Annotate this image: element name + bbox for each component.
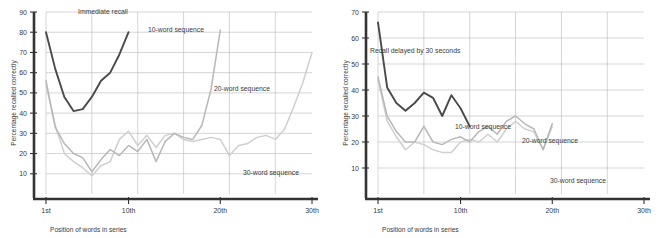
x-axis-tick-label: 20th (545, 207, 559, 214)
annotation-label: Recall delayed by 30 seconds (370, 47, 461, 55)
x-axis-tick-label: 10th (454, 207, 468, 214)
x-axis-tick-label: 30th (305, 207, 319, 214)
y-axis-tick-label: 20 (351, 139, 359, 146)
x-axis-tick-label: 30th (637, 207, 651, 214)
x-axis-tick-label: 1st (373, 207, 382, 214)
y-axis-tick-label: 50 (19, 89, 27, 96)
x-axis-title: Position of words in series (382, 226, 459, 233)
chart-panel-immediate-recall: 102030405060708090Percentage recalled co… (0, 0, 332, 238)
y-axis-tick-label: 30 (351, 113, 359, 120)
figure-root: 102030405060708090Percentage recalled co… (0, 0, 664, 238)
annotation-label: 20-word sequence (214, 85, 270, 93)
y-axis-tick-label: 10 (19, 170, 27, 177)
y-axis: 10203040506070 (351, 9, 369, 198)
y-axis-tick-label: 40 (19, 110, 27, 117)
series-group (46, 30, 312, 176)
y-axis-tick-label: 40 (351, 87, 359, 94)
y-axis-tick-label: 30 (19, 130, 27, 137)
gridlines-group (46, 12, 312, 194)
x-axis-tick-label: 10th (122, 207, 136, 214)
x-axis-tick-label: 20th (213, 207, 227, 214)
x-axis: 1st10th20th30th (365, 197, 651, 214)
y-axis-tick-label: 70 (19, 49, 27, 56)
chart-panel-delayed-recall: 10203040506070Percentage recalled correc… (332, 0, 664, 238)
delayed-recall-chart: 10203040506070Percentage recalled correc… (332, 0, 664, 238)
annotation-label: 10-word sequence (455, 123, 511, 131)
y-axis-tick-label: 80 (19, 29, 27, 36)
x-axis-tick-label: 1st (41, 207, 50, 214)
annotation-label: 30-word sequence (550, 177, 606, 185)
series-line-twenty-word (46, 30, 220, 172)
annotations-group: Immediate recall10-word sequence20-word … (78, 8, 299, 177)
y-axis-tick-label: 60 (351, 35, 359, 42)
immediate-recall-chart: 102030405060708090Percentage recalled co… (0, 0, 332, 238)
annotation-label: 20-word sequence (522, 137, 578, 145)
gridlines-group (378, 12, 644, 194)
annotation-label: Immediate recall (78, 8, 128, 15)
x-axis: 1st10th20th30th (33, 197, 319, 214)
annotation-label: 30-word sequence (243, 169, 299, 177)
y-axis-tick-label: 10 (351, 165, 359, 172)
y-axis-tick-label: 70 (351, 9, 359, 16)
y-axis-title: Percentage recalled correctly (342, 60, 350, 146)
x-axis-title: Position of words in series (50, 226, 127, 233)
y-axis-tick-label: 50 (351, 61, 359, 68)
series-group (378, 22, 552, 152)
annotation-label: 10-word sequence (148, 26, 204, 34)
series-line-thirty-word (46, 52, 312, 175)
y-axis-tick-label: 90 (19, 9, 27, 16)
y-axis: 102030405060708090 (19, 9, 37, 198)
y-axis-tick-label: 60 (19, 69, 27, 76)
series-line-ten-word (46, 32, 129, 111)
y-axis-title: Percentage recalled correctly (10, 60, 18, 146)
y-axis-tick-label: 20 (19, 150, 27, 157)
